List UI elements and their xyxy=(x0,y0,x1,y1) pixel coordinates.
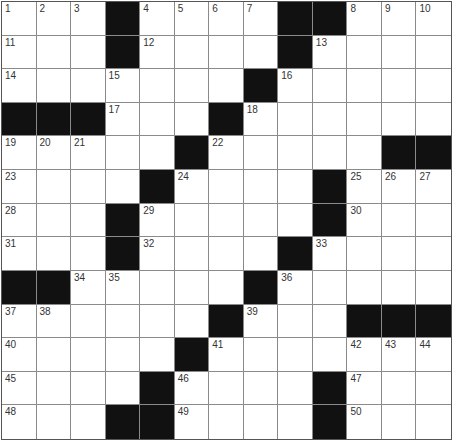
crossword-cell[interactable] xyxy=(313,271,348,305)
crossword-cell[interactable]: 10 xyxy=(416,2,451,36)
crossword-cell[interactable]: 21 xyxy=(71,136,106,170)
crossword-cell[interactable]: 50 xyxy=(347,405,382,439)
crossword-cell[interactable]: 36 xyxy=(278,271,313,305)
crossword-cell[interactable]: 16 xyxy=(278,69,313,103)
crossword-cell[interactable] xyxy=(175,36,210,70)
crossword-cell[interactable] xyxy=(209,271,244,305)
crossword-cell[interactable] xyxy=(416,405,451,439)
crossword-cell[interactable] xyxy=(37,69,72,103)
crossword-cell[interactable] xyxy=(71,237,106,271)
crossword-cell[interactable]: 6 xyxy=(209,2,244,36)
crossword-cell[interactable]: 45 xyxy=(2,372,37,406)
crossword-cell[interactable] xyxy=(140,103,175,137)
crossword-cell[interactable]: 33 xyxy=(313,237,348,271)
crossword-cell[interactable] xyxy=(382,237,417,271)
crossword-cell[interactable] xyxy=(37,405,72,439)
crossword-cell[interactable]: 2 xyxy=(37,2,72,36)
crossword-cell[interactable]: 37 xyxy=(2,305,37,339)
crossword-cell[interactable] xyxy=(313,305,348,339)
crossword-cell[interactable] xyxy=(71,36,106,70)
crossword-cell[interactable]: 44 xyxy=(416,338,451,372)
crossword-cell[interactable] xyxy=(244,405,279,439)
crossword-cell[interactable] xyxy=(278,338,313,372)
crossword-cell[interactable] xyxy=(416,69,451,103)
crossword-cell[interactable] xyxy=(382,36,417,70)
crossword-cell[interactable]: 1 xyxy=(2,2,37,36)
crossword-cell[interactable] xyxy=(209,237,244,271)
crossword-cell[interactable]: 41 xyxy=(209,338,244,372)
crossword-cell[interactable] xyxy=(347,103,382,137)
crossword-cell[interactable] xyxy=(140,305,175,339)
crossword-cell[interactable] xyxy=(244,338,279,372)
crossword-cell[interactable]: 17 xyxy=(106,103,141,137)
crossword-cell[interactable] xyxy=(382,372,417,406)
crossword-cell[interactable] xyxy=(71,305,106,339)
crossword-cell[interactable]: 3 xyxy=(71,2,106,36)
crossword-cell[interactable]: 46 xyxy=(175,372,210,406)
crossword-cell[interactable]: 28 xyxy=(2,204,37,238)
crossword-cell[interactable] xyxy=(244,204,279,238)
crossword-cell[interactable]: 35 xyxy=(106,271,141,305)
crossword-cell[interactable]: 40 xyxy=(2,338,37,372)
crossword-cell[interactable] xyxy=(71,405,106,439)
crossword-cell[interactable]: 38 xyxy=(37,305,72,339)
crossword-cell[interactable]: 49 xyxy=(175,405,210,439)
crossword-cell[interactable]: 23 xyxy=(2,170,37,204)
crossword-cell[interactable]: 18 xyxy=(244,103,279,137)
crossword-cell[interactable] xyxy=(382,69,417,103)
crossword-cell[interactable]: 22 xyxy=(209,136,244,170)
crossword-cell[interactable] xyxy=(106,170,141,204)
crossword-cell[interactable]: 20 xyxy=(37,136,72,170)
crossword-cell[interactable] xyxy=(175,103,210,137)
crossword-cell[interactable]: 47 xyxy=(347,372,382,406)
crossword-cell[interactable]: 39 xyxy=(244,305,279,339)
crossword-cell[interactable]: 8 xyxy=(347,2,382,36)
crossword-cell[interactable] xyxy=(382,271,417,305)
crossword-cell[interactable] xyxy=(347,69,382,103)
crossword-cell[interactable] xyxy=(416,271,451,305)
crossword-cell[interactable] xyxy=(416,36,451,70)
crossword-cell[interactable] xyxy=(313,69,348,103)
crossword-cell[interactable] xyxy=(37,36,72,70)
crossword-cell[interactable] xyxy=(209,204,244,238)
crossword-cell[interactable] xyxy=(71,204,106,238)
crossword-cell[interactable] xyxy=(416,103,451,137)
crossword-cell[interactable] xyxy=(140,136,175,170)
crossword-cell[interactable] xyxy=(416,237,451,271)
crossword-cell[interactable]: 27 xyxy=(416,170,451,204)
crossword-cell[interactable]: 12 xyxy=(140,36,175,70)
crossword-cell[interactable] xyxy=(106,372,141,406)
crossword-cell[interactable] xyxy=(278,103,313,137)
crossword-cell[interactable] xyxy=(209,170,244,204)
crossword-cell[interactable] xyxy=(244,36,279,70)
crossword-cell[interactable] xyxy=(382,405,417,439)
crossword-cell[interactable] xyxy=(175,271,210,305)
crossword-cell[interactable] xyxy=(313,136,348,170)
crossword-cell[interactable] xyxy=(140,338,175,372)
crossword-cell[interactable] xyxy=(313,338,348,372)
crossword-cell[interactable] xyxy=(71,338,106,372)
crossword-cell[interactable] xyxy=(37,338,72,372)
crossword-cell[interactable]: 34 xyxy=(71,271,106,305)
crossword-cell[interactable]: 5 xyxy=(175,2,210,36)
crossword-cell[interactable] xyxy=(244,136,279,170)
crossword-cell[interactable] xyxy=(382,103,417,137)
crossword-cell[interactable]: 32 xyxy=(140,237,175,271)
crossword-cell[interactable] xyxy=(313,103,348,137)
crossword-cell[interactable]: 43 xyxy=(382,338,417,372)
crossword-cell[interactable] xyxy=(244,372,279,406)
crossword-cell[interactable] xyxy=(382,204,417,238)
crossword-cell[interactable]: 19 xyxy=(2,136,37,170)
crossword-cell[interactable] xyxy=(209,69,244,103)
crossword-cell[interactable]: 7 xyxy=(244,2,279,36)
crossword-cell[interactable] xyxy=(209,36,244,70)
crossword-cell[interactable] xyxy=(278,372,313,406)
crossword-cell[interactable] xyxy=(175,237,210,271)
crossword-cell[interactable]: 13 xyxy=(313,36,348,70)
crossword-cell[interactable] xyxy=(175,305,210,339)
crossword-cell[interactable] xyxy=(37,237,72,271)
crossword-cell[interactable] xyxy=(244,170,279,204)
crossword-cell[interactable]: 4 xyxy=(140,2,175,36)
crossword-cell[interactable] xyxy=(416,372,451,406)
crossword-cell[interactable]: 26 xyxy=(382,170,417,204)
